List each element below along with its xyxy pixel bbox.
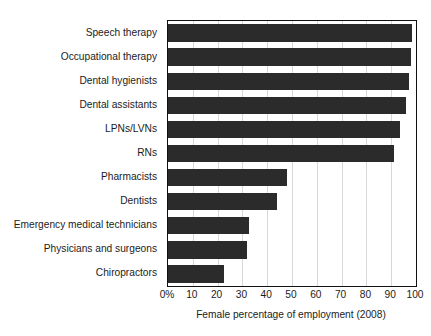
chart-title-remnant [44, 0, 384, 5]
category-label: Dental hygienists [0, 75, 162, 86]
bars-layer [168, 21, 416, 286]
bar [168, 265, 224, 282]
category-label: RNs [0, 147, 162, 158]
x-tick-label: 100 [407, 288, 424, 301]
x-tick-label: 70 [335, 288, 346, 301]
x-tick-label: 20 [211, 288, 222, 301]
x-tick-label: 0% [160, 288, 175, 301]
bar [168, 48, 411, 65]
bar [168, 97, 406, 114]
plot-area [167, 20, 417, 287]
bar [168, 193, 277, 210]
category-label: Emergency medical technicians [0, 219, 162, 230]
x-tick-label: 10 [186, 288, 197, 301]
x-tick-label: 90 [385, 288, 396, 301]
category-label: Dentists [0, 195, 162, 206]
category-label: Physicians and surgeons [0, 243, 162, 254]
category-label: Speech therapy [0, 27, 162, 38]
category-label: Pharmacists [0, 171, 162, 182]
category-label: Chiropractors [0, 267, 162, 278]
bar [168, 217, 249, 234]
x-axis-tick-labels: 0%102030405060708090100 [167, 288, 415, 304]
bar [168, 121, 400, 138]
x-axis-title: Female percentage of employment (2008) [167, 308, 415, 321]
bar [168, 169, 287, 186]
bar [168, 145, 394, 162]
x-tick-label: 80 [360, 288, 371, 301]
bar [168, 73, 409, 90]
bar-chart-figure: Speech therapyOccupational therapyDental… [0, 0, 431, 336]
category-label: Dental assistants [0, 99, 162, 110]
category-axis: Speech therapyOccupational therapyDental… [0, 20, 162, 285]
x-tick-label: 50 [285, 288, 296, 301]
category-label: LPNs/LVNs [0, 123, 162, 134]
category-label: Occupational therapy [0, 51, 162, 62]
bar [168, 24, 412, 41]
x-tick-label: 60 [310, 288, 321, 301]
x-tick-label: 30 [236, 288, 247, 301]
x-tick-label: 40 [261, 288, 272, 301]
bar [168, 241, 247, 258]
